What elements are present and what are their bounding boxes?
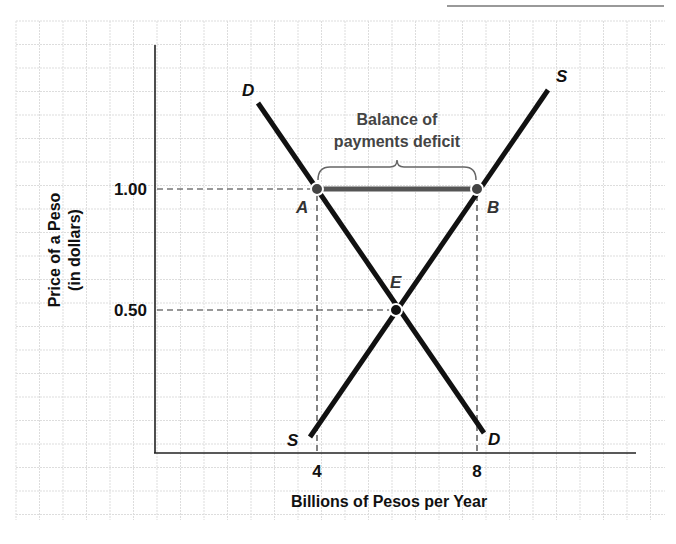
y-axis-title-line2: (in dollars) bbox=[66, 209, 83, 291]
point-e-marker bbox=[390, 304, 402, 316]
x-tick-4: 4 bbox=[312, 462, 322, 481]
supply-label-top: S bbox=[556, 67, 568, 86]
supply-label-bottom: S bbox=[287, 431, 299, 450]
reference-lines bbox=[157, 189, 477, 452]
demand-label-bottom: D bbox=[488, 430, 500, 449]
x-axis-title: Billions of Pesos per Year bbox=[291, 493, 487, 510]
deficit-brace bbox=[318, 160, 476, 180]
point-b-marker bbox=[471, 183, 483, 195]
y-axis-title-line1: Price of a Peso bbox=[46, 192, 63, 307]
y-tick-0-50: 0.50 bbox=[114, 301, 147, 320]
point-e-label: E bbox=[390, 273, 402, 292]
y-tick-1-00: 1.00 bbox=[114, 180, 147, 199]
point-a-marker bbox=[311, 183, 323, 195]
demand-curve bbox=[258, 103, 484, 433]
point-a-label: A bbox=[295, 198, 308, 217]
demand-label-top: D bbox=[242, 81, 254, 100]
deficit-annotation-line1: Balance of bbox=[357, 111, 439, 128]
grid bbox=[16, 21, 665, 520]
deficit-annotation-line2: payments deficit bbox=[334, 133, 461, 150]
x-tick-8: 8 bbox=[472, 462, 481, 481]
chart-figure: D D S S A B E Balance of payments defici… bbox=[0, 0, 676, 544]
point-b-label: B bbox=[487, 198, 499, 217]
